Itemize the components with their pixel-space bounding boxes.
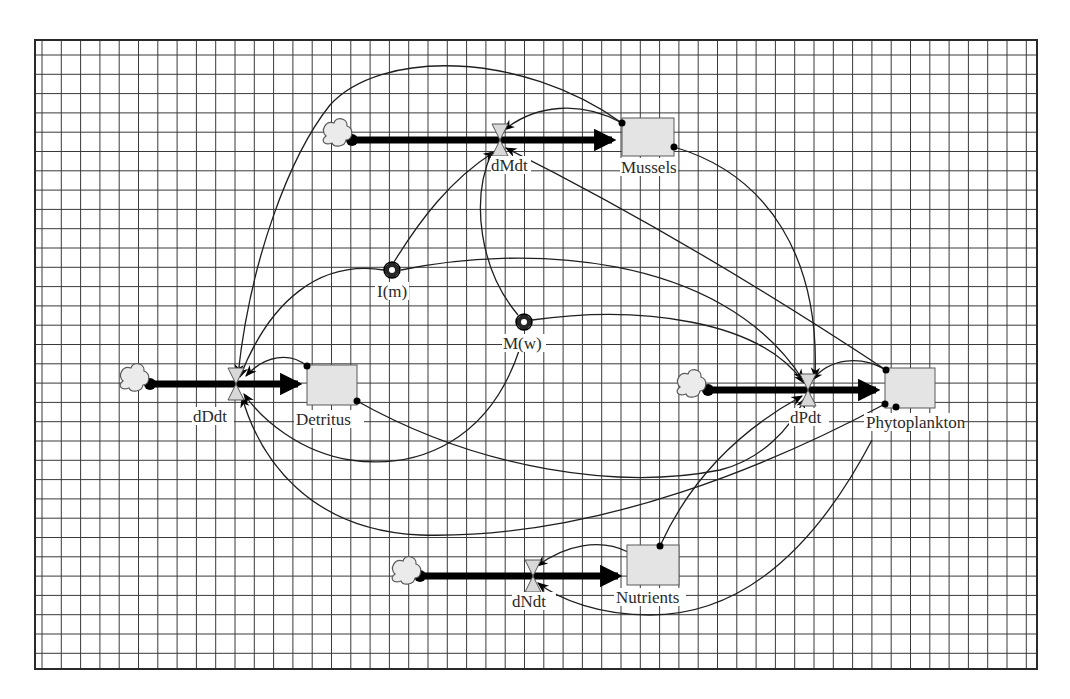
stock-mussels[interactable]	[622, 118, 674, 156]
label-Im: I(m)	[377, 282, 407, 301]
valves	[228, 124, 816, 592]
converter-Im[interactable]	[384, 262, 400, 278]
stock-detritus[interactable]	[307, 365, 357, 405]
connector-detritus-to-dDdt[interactable]	[246, 357, 307, 376]
connector-mussels-to-dPdt[interactable]	[674, 147, 815, 378]
label-dNdt: dNdt	[512, 592, 546, 611]
label-mussels: Mussels	[621, 158, 677, 177]
stocks	[304, 118, 936, 585]
stock-phytoplankton[interactable]	[885, 368, 935, 408]
connector-phytoplankton-to-dNdt[interactable]	[538, 440, 872, 615]
label-dMdt: dMdt	[491, 156, 528, 175]
label-dDdt: dDdt	[193, 407, 227, 426]
label-detritus: Detritus	[296, 410, 351, 429]
label-Mw: M(w)	[503, 334, 542, 353]
stock-flow-diagram: dMdt Mussels dDdt Detritus dPdt Phytopla…	[0, 0, 1070, 699]
stock-nutrients[interactable]	[627, 545, 679, 585]
cloud-icon	[677, 370, 706, 397]
cloud-icon	[120, 364, 149, 391]
clouds	[120, 119, 706, 584]
converter-Mw[interactable]	[516, 314, 532, 330]
connector-nutrients-to-dPdt[interactable]	[660, 396, 802, 546]
label-nutrients: Nutrients	[616, 588, 679, 607]
connector-detritus-to-dPdt[interactable]	[357, 398, 805, 477]
label-phytoplankton: Phytoplankton	[866, 413, 966, 432]
connector-Mw-to-dDdt[interactable]	[244, 348, 520, 462]
connector-mussels-to-dDdt[interactable]	[238, 66, 622, 375]
connectors	[238, 66, 886, 615]
label-dPdt: dPdt	[790, 408, 821, 427]
